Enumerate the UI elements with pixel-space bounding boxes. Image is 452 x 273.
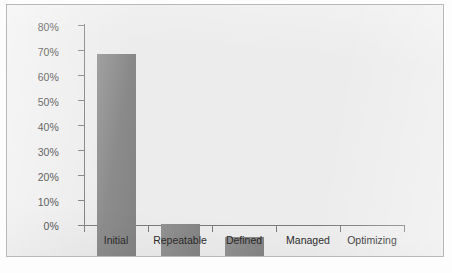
x-axis-tick-mark-1 <box>148 226 149 232</box>
x-axis-label-repeatable: Repeatable <box>143 235 217 246</box>
x-axis-tick-mark-4 <box>340 226 341 232</box>
x-axis-tick-mark-0 <box>84 226 85 232</box>
figure-root: 80% 70% 60% 50% 40% 30% 20% 10% 0% <box>0 0 452 273</box>
y-axis-tick-label-30: 30% <box>11 147 59 158</box>
y-axis-tick-label-60: 60% <box>11 72 59 83</box>
bar-initial <box>97 54 136 256</box>
x-axis-label-managed: Managed <box>271 235 345 246</box>
x-axis-tick-mark-2 <box>212 226 213 232</box>
x-axis-tick-mark-3 <box>276 226 277 232</box>
y-axis-tick-label-20: 20% <box>11 172 59 183</box>
y-axis-tick-label-10: 10% <box>11 197 59 208</box>
y-axis-tick-label-0: 0% <box>11 221 59 232</box>
x-axis-tick-mark-5 <box>404 226 405 232</box>
y-axis-tick-label-80: 80% <box>11 22 59 33</box>
x-axis-label-initial: Initial <box>79 235 153 246</box>
x-axis-label-defined: Defined <box>207 235 281 246</box>
chart-panel: 80% 70% 60% 50% 40% 30% 20% 10% 0% <box>6 4 444 257</box>
x-axis-label-optimizing: Optimizing <box>335 235 409 246</box>
paper-grain-overlay <box>7 5 443 256</box>
y-axis-tick-label-50: 50% <box>11 97 59 108</box>
y-axis-tick-label-70: 70% <box>11 47 59 58</box>
y-axis-tick-label-40: 40% <box>11 122 59 133</box>
y-axis-line <box>84 24 85 226</box>
